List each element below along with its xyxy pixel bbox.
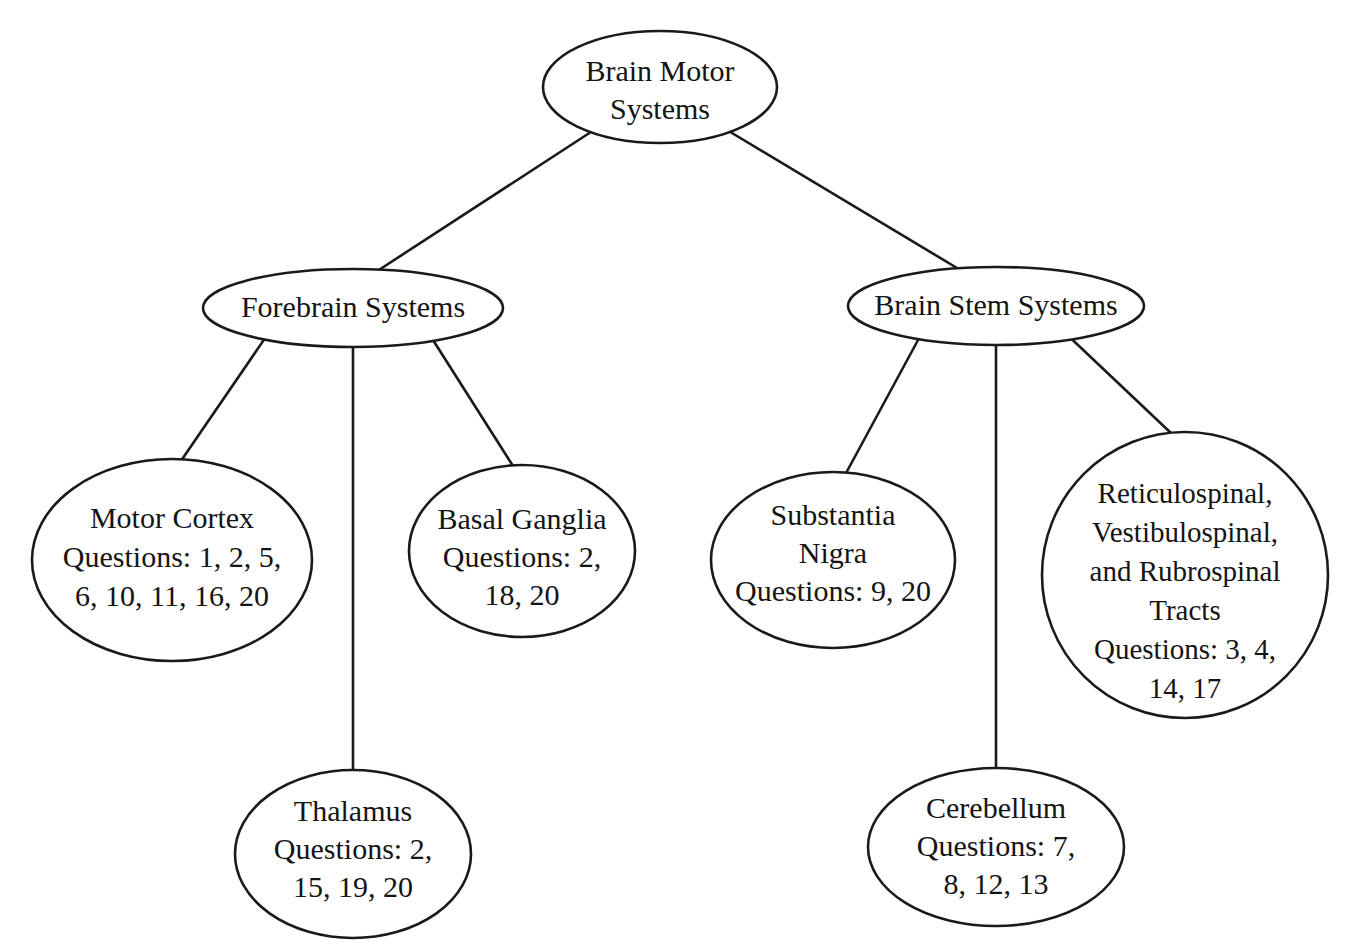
node-label-thalamus-line-2: Questions: 2, xyxy=(274,832,432,865)
node-label-tracts-line-1: Reticulospinal, xyxy=(1098,477,1273,509)
node-label-cerebellum-line-1: Cerebellum xyxy=(926,791,1066,824)
node-label-tracts-line-2: Vestibulospinal, xyxy=(1092,516,1278,548)
node-label-thalamus-line-3: 15, 19, 20 xyxy=(293,870,413,903)
node-substantia-nigra[interactable]: Substantia Nigra Questions: 9, 20 xyxy=(711,472,955,648)
node-label-brain-motor-systems-line-2: Systems xyxy=(610,92,710,125)
concept-map-canvas: Brain Motor Systems Forebrain Systems Br… xyxy=(0,0,1346,950)
node-label-motor-cortex-line-1: Motor Cortex xyxy=(90,501,254,534)
node-label-substantia-nigra-line-1: Substantia xyxy=(771,498,896,531)
node-label-tracts-line-5: Questions: 3, 4, xyxy=(1094,633,1276,665)
node-label-brain-stem-systems: Brain Stem Systems xyxy=(874,288,1117,321)
node-reticulospinal-vestibulospinal-rubrospinal-tracts[interactable]: Reticulospinal, Vestibulospinal, and Rub… xyxy=(1042,432,1328,718)
node-label-tracts-line-4: Tracts xyxy=(1149,594,1220,626)
node-label-cerebellum-line-2: Questions: 7, xyxy=(917,829,1075,862)
brain-motor-systems-concept-map: Brain Motor Systems Forebrain Systems Br… xyxy=(0,0,1346,950)
node-label-brain-motor-systems-line-1: Brain Motor xyxy=(585,54,734,87)
node-label-substantia-nigra-line-3: Questions: 9, 20 xyxy=(735,574,931,607)
node-brain-motor-systems[interactable]: Brain Motor Systems xyxy=(543,31,777,143)
node-label-forebrain-systems: Forebrain Systems xyxy=(241,290,465,323)
node-label-basal-ganglia-line-1: Basal Ganglia xyxy=(437,502,606,535)
node-label-basal-ganglia-line-2: Questions: 2, xyxy=(443,540,601,573)
node-label-motor-cortex-line-2: Questions: 1, 2, 5, xyxy=(63,540,281,573)
node-label-motor-cortex-line-3: 6, 10, 11, 16, 20 xyxy=(75,579,269,612)
node-label-basal-ganglia-line-3: 18, 20 xyxy=(485,578,560,611)
node-shape-brain-motor-systems xyxy=(543,31,777,143)
node-label-tracts-line-3: and Rubrospinal xyxy=(1090,555,1281,587)
node-motor-cortex[interactable]: Motor Cortex Questions: 1, 2, 5, 6, 10, … xyxy=(32,459,312,661)
node-thalamus[interactable]: Thalamus Questions: 2, 15, 19, 20 xyxy=(235,770,471,938)
node-label-tracts-line-6: 14, 17 xyxy=(1149,672,1222,704)
node-label-cerebellum-line-3: 8, 12, 13 xyxy=(944,867,1049,900)
node-label-thalamus-line-1: Thalamus xyxy=(294,794,412,827)
node-label-substantia-nigra-line-2: Nigra xyxy=(799,536,867,569)
node-cerebellum[interactable]: Cerebellum Questions: 7, 8, 12, 13 xyxy=(868,768,1124,926)
node-forebrain-systems[interactable]: Forebrain Systems xyxy=(203,269,503,347)
node-basal-ganglia[interactable]: Basal Ganglia Questions: 2, 18, 20 xyxy=(409,465,635,637)
node-brain-stem-systems[interactable]: Brain Stem Systems xyxy=(848,267,1144,345)
